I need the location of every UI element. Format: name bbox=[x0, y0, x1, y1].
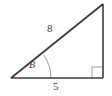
triangle-side-hypotenuse bbox=[11, 4, 103, 78]
angle-arc bbox=[44, 55, 51, 78]
angle-b-label: B bbox=[29, 59, 35, 70]
right-angle-marker-icon bbox=[92, 67, 103, 78]
hypotenuse-length-label: 8 bbox=[47, 23, 53, 34]
triangle-figure: 8 5 B bbox=[0, 0, 112, 96]
base-length-label: 5 bbox=[53, 81, 59, 92]
